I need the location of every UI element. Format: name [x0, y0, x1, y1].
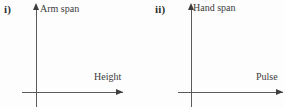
- y-axis-label-i: Arm span: [40, 3, 79, 14]
- x-axis-label-ii: Pulse: [256, 71, 278, 82]
- axes-panel-ii: ii) Hand span Pulse: [142, 0, 284, 107]
- x-axis-line-ii: [178, 92, 283, 93]
- worksheet-page: i) Arm span Height ii) Hand span Pulse: [0, 0, 284, 107]
- x-axis-line-i: [22, 92, 123, 93]
- arrow-right-icon: [116, 89, 123, 95]
- y-axis-label-ii: Hand span: [193, 2, 236, 13]
- x-axis-label-i: Height: [94, 71, 121, 82]
- arrow-up-icon: [33, 3, 39, 10]
- panel-marker-i: i): [4, 3, 11, 15]
- axes-panel-i: i) Arm span Height: [0, 0, 142, 107]
- arrow-right-icon: [276, 89, 283, 95]
- panel-marker-ii: ii): [155, 3, 165, 15]
